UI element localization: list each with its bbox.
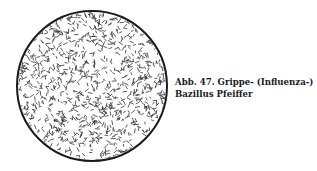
caption-line-1: Abb. 47. Grippe- (Influenza-) — [175, 76, 313, 88]
caption-line-2: Bazillus Pfeiffer — [175, 88, 313, 100]
figure: Abb. 47. Grippe- (Influenza-) Bazillus P… — [0, 0, 317, 171]
figure-caption: Abb. 47. Grippe- (Influenza-) Bazillus P… — [175, 76, 313, 100]
